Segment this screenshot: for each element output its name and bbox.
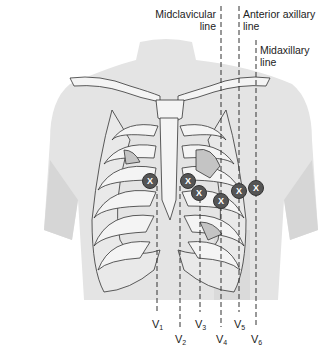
electrode-v6: X [248, 180, 264, 196]
electrode-v1: X [142, 173, 158, 189]
anterior-axillary-line-label: Anterior axillary line [243, 8, 315, 32]
lead-label-v5: V5 [234, 318, 245, 331]
electrode-v3: X [191, 185, 207, 201]
lead-label-v1: V1 [152, 318, 163, 331]
midclavicular-line-label: Midclavicular line [132, 8, 216, 32]
lead-label-v6: V6 [251, 333, 262, 346]
lead-label-v3: V3 [195, 318, 206, 331]
electrode-v5: X [231, 183, 247, 199]
lead-label-v2: V2 [175, 333, 186, 346]
midaxillary-line-label: Midaxillary line [260, 44, 310, 68]
electrode-v4: X [213, 193, 229, 209]
lead-label-v4: V4 [216, 333, 227, 346]
